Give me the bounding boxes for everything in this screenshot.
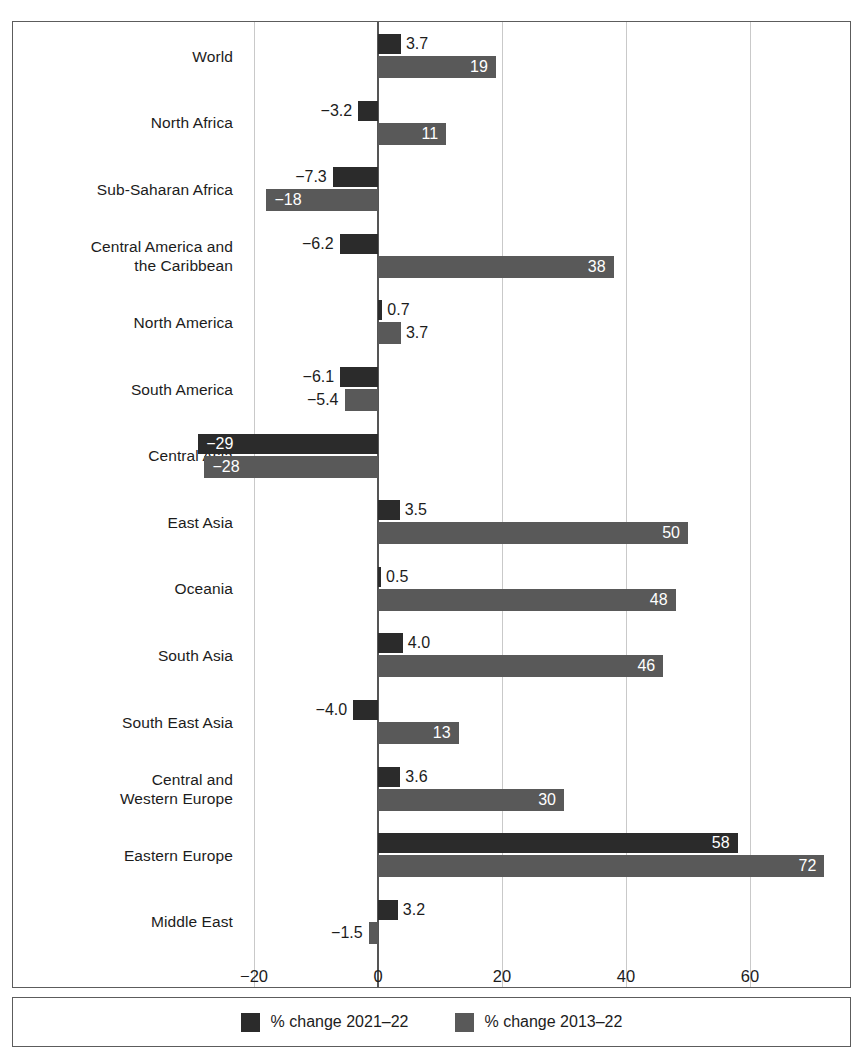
value-label: 3.6 xyxy=(405,769,427,785)
chart-row: East Asia3.550 xyxy=(13,500,850,544)
legend-swatch-icon xyxy=(455,1013,474,1032)
bar-2021-22 xyxy=(333,167,378,187)
bar-2021-22 xyxy=(340,367,378,387)
chart-row: South East Asia−4.013 xyxy=(13,700,850,744)
chart-row: Oceania0.548 xyxy=(13,567,850,611)
legend-item[interactable]: % change 2021–22 xyxy=(241,1013,409,1032)
x-tick-label: 20 xyxy=(493,967,511,986)
value-label: −1.5 xyxy=(331,925,363,941)
x-tick-label: 0 xyxy=(373,967,382,986)
value-label: 4.0 xyxy=(408,635,430,651)
value-label: 38 xyxy=(588,259,606,275)
value-label: −6.1 xyxy=(303,369,335,385)
category-label: Sub-Saharan Africa xyxy=(97,180,233,199)
value-label: 30 xyxy=(538,792,556,808)
legend-label: % change 2021–22 xyxy=(271,1013,409,1031)
value-label: −5.4 xyxy=(307,392,339,408)
category-label: South East Asia xyxy=(122,713,233,732)
value-label: 3.5 xyxy=(405,502,427,518)
value-label: 0.7 xyxy=(387,302,409,318)
legend-frame: % change 2021–22% change 2013–22 xyxy=(12,997,851,1047)
value-label: 13 xyxy=(433,725,451,741)
chart-row: Central Asia−29−28 xyxy=(13,434,850,478)
value-label: 11 xyxy=(422,126,439,142)
chart-row: North Africa−3.211 xyxy=(13,101,850,145)
chart-row: World3.719 xyxy=(13,34,850,78)
chart-row: South Asia4.046 xyxy=(13,633,850,677)
value-label: 3.2 xyxy=(403,902,425,918)
bar-2021-22 xyxy=(378,34,401,54)
bar-2013-22 xyxy=(345,389,378,411)
legend-item[interactable]: % change 2013–22 xyxy=(455,1013,623,1032)
bar-2021-22 xyxy=(378,300,382,320)
bar-2021-22 xyxy=(340,234,378,254)
legend-swatch-icon xyxy=(241,1013,260,1032)
value-label: −6.2 xyxy=(302,236,334,252)
bar-2021-22 xyxy=(378,767,400,787)
value-label: 19 xyxy=(470,59,488,75)
x-tick-label: 40 xyxy=(617,967,635,986)
bar-2013-22 xyxy=(378,855,824,877)
value-label: 0.5 xyxy=(386,569,408,585)
chart-row: South America−6.1−5.4 xyxy=(13,367,850,411)
category-label: East Asia xyxy=(167,513,233,532)
x-tick-label: 60 xyxy=(741,967,759,986)
legend-label: % change 2013–22 xyxy=(485,1013,623,1031)
value-label: 3.7 xyxy=(406,36,428,52)
value-label: −29 xyxy=(206,436,233,452)
x-tick-label: −20 xyxy=(240,967,268,986)
category-label: Eastern Europe xyxy=(124,846,233,865)
value-label: −18 xyxy=(274,192,301,208)
chart-page: World3.719North Africa−3.211Sub-Saharan … xyxy=(0,0,865,1062)
bar-2013-22 xyxy=(378,322,401,344)
category-label: North Africa xyxy=(151,113,233,132)
bar-2013-22 xyxy=(378,522,688,544)
chart-row: North America0.73.7 xyxy=(13,300,850,344)
bar-2021-22 xyxy=(378,567,381,587)
value-label: 58 xyxy=(712,835,730,851)
value-label: 72 xyxy=(799,858,817,874)
value-label: −28 xyxy=(212,459,239,475)
legend: % change 2021–22% change 2013–22 xyxy=(13,998,850,1046)
category-label: North America xyxy=(134,313,234,332)
chart-row: Central America and the Caribbean−6.238 xyxy=(13,234,850,278)
category-label: Central and Western Europe xyxy=(120,770,233,808)
category-label: Central America and the Caribbean xyxy=(91,237,233,275)
value-label: 3.7 xyxy=(406,325,428,341)
value-label: −4.0 xyxy=(316,702,348,718)
bar-2013-22 xyxy=(378,256,614,278)
bar-2013-22 xyxy=(378,589,676,611)
x-axis-ticks: −200204060 xyxy=(13,967,850,993)
bar-2021-22 xyxy=(378,500,400,520)
category-label: World xyxy=(192,47,233,66)
bar-2021-22 xyxy=(353,700,378,720)
value-label: −3.2 xyxy=(321,103,353,119)
chart-row: Middle East3.2−1.5 xyxy=(13,900,850,944)
bar-2013-22 xyxy=(378,655,663,677)
bar-2013-22 xyxy=(378,789,564,811)
bar-2021-22 xyxy=(378,833,738,853)
category-label: Middle East xyxy=(151,912,233,931)
value-label: −7.3 xyxy=(295,169,327,185)
chart-row: Eastern Europe5872 xyxy=(13,833,850,877)
chart-row: Sub-Saharan Africa−7.3−18 xyxy=(13,167,850,211)
value-label: 46 xyxy=(637,658,655,674)
category-label: South Asia xyxy=(158,646,233,665)
bar-2021-22 xyxy=(378,633,403,653)
bar-2021-22 xyxy=(378,900,398,920)
value-label: 48 xyxy=(650,592,668,608)
plot-frame: World3.719North Africa−3.211Sub-Saharan … xyxy=(12,21,851,988)
category-label: Oceania xyxy=(175,579,233,598)
chart-row: Central and Western Europe3.630 xyxy=(13,767,850,811)
value-label: 50 xyxy=(662,525,680,541)
category-label: South America xyxy=(131,380,233,399)
bar-2013-22 xyxy=(369,922,378,944)
bar-2021-22 xyxy=(358,101,378,121)
